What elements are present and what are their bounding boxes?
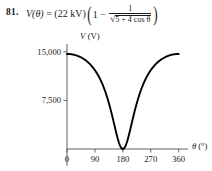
- formula-expression: V(θ) = (22 kV)(1 − 1 √5 + 4 cos θ ): [26, 5, 159, 24]
- y-axis-label-symbol: V: [80, 31, 87, 41]
- fraction-denominator: √5 + 4 cos θ: [109, 15, 151, 24]
- y-axis-tick-labels: 7,50015,000: [37, 47, 61, 106]
- problem-statement: 81. V(θ) = (22 kV)(1 − 1 √5 + 4 cos θ ): [6, 2, 212, 28]
- function-curve: [67, 54, 179, 149]
- fraction-numerator: 1: [109, 5, 151, 13]
- voltage-plot: 090180270360 7,50015,000 V(V) θ(°): [0, 26, 212, 171]
- y-axis-ticks: [64, 52, 68, 101]
- x-axis-tick-label: 360: [172, 154, 185, 164]
- formula-minus: −: [100, 9, 106, 20]
- problem-number: 81.: [6, 7, 18, 17]
- y-axis-tick-label: 15,000: [37, 47, 61, 57]
- x-axis-label-units: (°): [198, 141, 207, 151]
- formula-equals: =: [46, 8, 52, 19]
- x-axis-label-symbol: θ: [192, 141, 197, 151]
- radical-overbar: [115, 15, 151, 16]
- formula-one: 1: [93, 9, 98, 20]
- x-axis-tick-label: 90: [91, 154, 100, 164]
- y-axis-label-units: (V): [88, 31, 100, 41]
- x-axis-tick-labels: 090180270360: [65, 154, 185, 164]
- formula-coefficient: (22 kV): [54, 8, 85, 19]
- x-axis-label: θ(°): [192, 141, 208, 151]
- y-axis-label: V(V): [80, 31, 100, 41]
- formula-fraction: 1 √5 + 4 cos θ: [109, 5, 151, 24]
- axes-group: [64, 44, 189, 166]
- x-axis-tick-label: 0: [65, 154, 69, 164]
- y-axis-tick-label: 7,500: [42, 95, 61, 105]
- formula-lhs: V(θ): [26, 8, 44, 19]
- x-axis-tick-label: 180: [116, 154, 129, 164]
- x-axis-tick-label: 270: [144, 154, 157, 164]
- plot-svg: 090180270360 7,50015,000 V(V) θ(°): [0, 26, 212, 171]
